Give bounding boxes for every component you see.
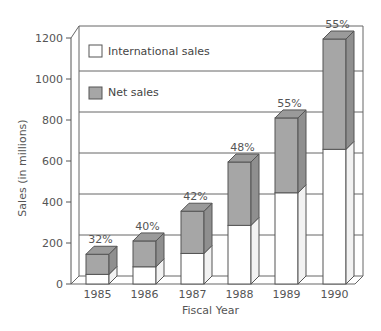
x-tick-label: 1990 [321, 288, 349, 301]
y-tick-label: 0 [56, 278, 63, 291]
y-axis: 020040060080010001200 [35, 32, 71, 291]
bar-1988: 48% [228, 141, 259, 284]
y-tick-label: 200 [42, 237, 63, 250]
legend-label-net-sales: Net sales [108, 86, 159, 99]
percentage-label: 32% [88, 233, 112, 246]
chart-back-wall [71, 26, 363, 276]
bar-1987: 42% [181, 190, 212, 284]
bar-1985: 32% [86, 233, 117, 284]
stacked-3d-bar-chart: 020040060080010001200 International sale… [0, 0, 381, 331]
legend-swatch-international-sales [89, 45, 102, 57]
legend-label-international-sales: International sales [108, 45, 210, 58]
x-tick-label: 1986 [131, 288, 159, 301]
x-tick-label: 1989 [273, 288, 301, 301]
intl-segment-front [228, 225, 251, 284]
net-segment-front [323, 39, 346, 149]
net-segment-front [275, 118, 298, 193]
back-wall-outline [71, 26, 363, 276]
x-tick-label: 1985 [84, 288, 112, 301]
y-tick-label: 600 [42, 155, 63, 168]
y-tick-label: 1200 [35, 32, 63, 45]
intl-segment-side [298, 185, 306, 284]
intl-segment-front [86, 274, 109, 284]
net-segment-side [298, 110, 306, 193]
x-axis-title: Fiscal Year [182, 304, 239, 317]
y-tick-label: 1000 [35, 73, 63, 86]
intl-segment-front [275, 193, 298, 284]
net-segment-front [86, 254, 109, 274]
x-tick-label: 1987 [179, 288, 207, 301]
net-segment-side [346, 31, 354, 149]
percentage-label: 55% [325, 18, 349, 31]
intl-segment-front [133, 267, 156, 284]
intl-segment-side [346, 141, 354, 284]
intl-segment-front [323, 149, 346, 284]
percentage-label: 40% [135, 220, 159, 233]
net-segment-front [133, 241, 156, 267]
y-tick-label: 800 [42, 114, 63, 127]
x-axis-labels: 198519861987198819891990 [84, 288, 349, 301]
legend: International sales Net sales [89, 45, 210, 99]
y-tick-label: 400 [42, 196, 63, 209]
net-segment-front [228, 162, 251, 225]
bar-1986: 40% [133, 220, 164, 284]
x-tick-label: 1988 [226, 288, 254, 301]
percentage-label: 42% [183, 190, 207, 203]
y-axis-title: Sales (in millions) [16, 119, 29, 216]
percentage-label: 55% [277, 97, 301, 110]
net-segment-side [204, 203, 212, 253]
intl-segment-side [251, 217, 259, 284]
percentage-label: 48% [230, 141, 254, 154]
intl-segment-front [181, 253, 204, 284]
bar-1990: 55% [323, 18, 354, 284]
legend-swatch-net-sales [89, 87, 102, 99]
net-segment-side [251, 154, 259, 225]
net-segment-front [181, 211, 204, 253]
bar-1989: 55% [275, 97, 306, 284]
